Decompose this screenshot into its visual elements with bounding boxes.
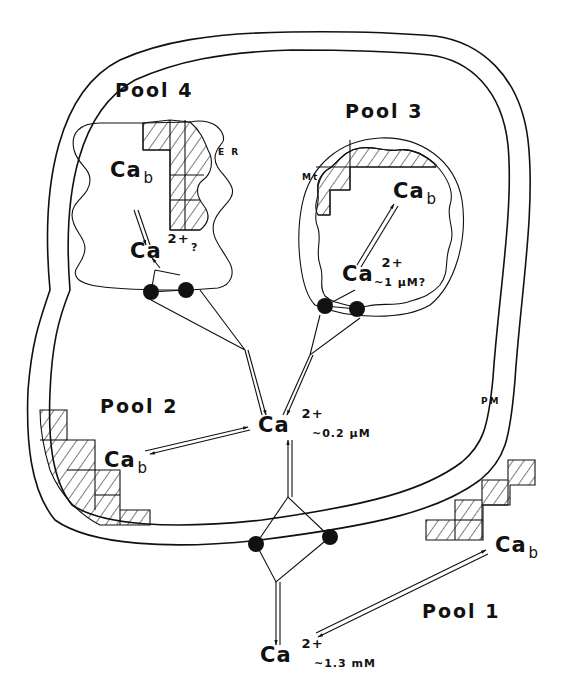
pool2-label: Pool 2 — [100, 395, 178, 417]
pool1-bound-ca: Cab — [495, 533, 539, 562]
pool2-equilibrium-arrow — [145, 427, 250, 454]
endoplasmic-reticulum — [72, 120, 233, 290]
pool4-bound-ca: Cab — [110, 158, 154, 187]
pm-transporter — [248, 440, 338, 645]
pool1-concentration: ~1.3 mM — [314, 657, 376, 670]
pool3-bound-ca: Cab — [393, 179, 437, 208]
pool4-free-ca: Ca2+ — [130, 231, 190, 263]
pool3-label: Pool 3 — [345, 100, 423, 122]
pm-binding-sites-right — [426, 460, 535, 540]
pool4-concentration: ? — [191, 241, 198, 254]
mitochondrion — [299, 138, 464, 316]
pool1-equilibrium-arrow — [316, 550, 488, 637]
pool4-label: Pool 4 — [115, 79, 193, 101]
mito-label: Mt — [302, 172, 319, 182]
calcium-pools-diagram: Pool 4 Pool 3 Pool 2 Pool 1 Cab Ca2+ ? E… — [0, 0, 565, 683]
er-label: E R — [218, 147, 240, 157]
mito-transporter — [283, 290, 365, 415]
pm-label: PM — [481, 396, 501, 406]
pool2-concentration: ~0.2 μM — [312, 427, 371, 440]
pool1-label: Pool 1 — [422, 600, 500, 622]
pool3-concentration: ~1 μM? — [374, 276, 426, 289]
er-transporter — [143, 270, 266, 415]
plasma-membrane — [28, 32, 531, 545]
